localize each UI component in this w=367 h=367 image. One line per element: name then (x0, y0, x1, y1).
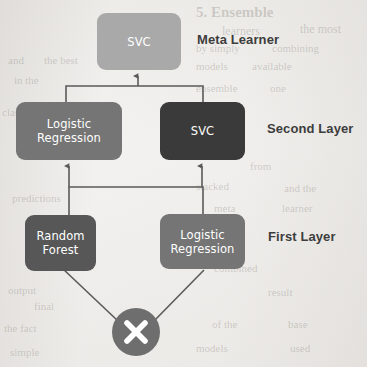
edge-layer (0, 0, 367, 367)
node-first-layer-logistic-regression-label-line2: Regression (171, 242, 235, 256)
layer-label-meta-learner: Meta Learner (197, 32, 279, 47)
node-meta-learner-label: SVC (127, 35, 151, 49)
layer-label-first-layer: First Layer (268, 229, 336, 244)
diagram-canvas: 5. Ensemblelearnersthe mostby simplycomb… (0, 0, 367, 367)
node-first-layer-random-forest-label-line1: Random (36, 229, 84, 243)
x-cross-icon (112, 308, 160, 356)
node-second-layer-logistic-regression-label-line1: Logistic (37, 117, 101, 131)
node-second-layer-logistic-regression[interactable]: Logistic Regression (16, 102, 122, 160)
node-second-layer-logistic-regression-label-line2: Regression (37, 131, 101, 145)
layer-label-second-layer: Second Layer (267, 121, 353, 136)
node-second-layer-svc[interactable]: SVC (160, 102, 245, 160)
node-first-layer-logistic-regression-label-line1: Logistic (171, 228, 235, 242)
node-input-dataset[interactable] (112, 308, 160, 356)
edge-first-layer-to-second-layer (69, 166, 203, 215)
node-first-layer-random-forest[interactable]: Random Forest (25, 215, 96, 271)
node-second-layer-svc-label: SVC (191, 124, 215, 138)
node-first-layer-logistic-regression[interactable]: Logistic Regression (160, 214, 245, 269)
node-first-layer-random-forest-label-line2: Forest (36, 243, 84, 257)
node-meta-learner-svc[interactable]: SVC (97, 13, 181, 70)
